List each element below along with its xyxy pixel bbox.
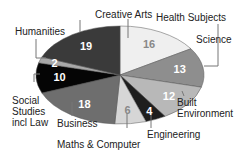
slice-value-label: 18	[78, 98, 90, 110]
label-built-line1: Built	[177, 97, 233, 108]
label-social-line3: incl Law	[12, 117, 48, 128]
label-social-studies: Social Studies incl Law	[12, 95, 48, 128]
leader-science	[204, 24, 218, 66]
slice-value-label: 16	[143, 38, 155, 50]
pie-chart: 161312461810219 Creative Arts Humanities…	[0, 0, 242, 156]
label-maths-computer: Maths & Computer	[57, 139, 140, 150]
label-social-line2: Studies	[12, 106, 48, 117]
label-humanities: Humanities	[15, 26, 65, 37]
slice-value-label: 6	[125, 104, 131, 116]
slice-value-label: 13	[174, 63, 186, 75]
slice-value-label: 19	[80, 40, 92, 52]
label-science: Science	[196, 34, 232, 45]
slice-value-label: 12	[163, 90, 175, 102]
slice-value-label: 10	[54, 71, 66, 83]
label-social-line1: Social	[12, 95, 48, 106]
slice-value-label: 4	[146, 105, 153, 117]
label-business: Business	[57, 118, 98, 129]
label-built-line2: Environment	[177, 108, 233, 119]
label-engineering: Engineering	[147, 129, 200, 140]
label-creative-arts: Creative Arts	[95, 9, 152, 20]
slice-value-label: 2	[51, 57, 57, 69]
label-health-subjects: Health Subjects	[156, 12, 226, 23]
label-built-environment: Built Environment	[177, 97, 233, 119]
pie-graphic: 161312461810219	[0, 0, 242, 156]
